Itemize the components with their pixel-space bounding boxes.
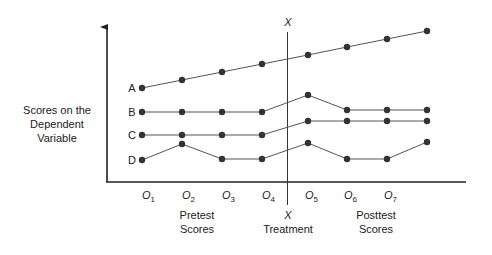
observation-label-o4: O4 <box>262 189 276 204</box>
svg-text:O6: O6 <box>344 189 358 204</box>
series-label-c: C <box>128 129 136 141</box>
observation-label-o3: O3 <box>222 189 236 204</box>
svg-text:O1: O1 <box>142 189 156 204</box>
svg-text:O2: O2 <box>182 189 196 204</box>
pretest-caption-line2: Scores <box>180 223 215 235</box>
observation-label-o2: O2 <box>182 189 196 204</box>
y-axis-label-line2: Dependent <box>30 118 84 130</box>
series-label-a: A <box>128 82 136 94</box>
treatment-caption: Treatment <box>263 223 313 235</box>
svg-text:O7: O7 <box>384 189 398 204</box>
observation-label-o7: O7 <box>384 189 398 204</box>
svg-text:O4: O4 <box>262 189 276 204</box>
observation-label-o6: O6 <box>344 189 358 204</box>
treatment-bottom-label: X <box>283 209 292 221</box>
svg-text:O5: O5 <box>305 189 319 204</box>
posttest-caption-line1: Posttest <box>356 209 396 221</box>
label-layer: X Scores on the Dependent Variable A B C… <box>0 0 492 255</box>
observation-label-o1: O1 <box>142 189 156 204</box>
series-label-d: D <box>128 154 136 166</box>
svg-text:O3: O3 <box>222 189 236 204</box>
posttest-caption-line2: Scores <box>359 223 394 235</box>
series-label-b: B <box>128 106 135 118</box>
y-axis-label-line1: Scores on the <box>23 104 91 116</box>
treatment-top-label: X <box>283 16 292 28</box>
observation-label-o5: O5 <box>305 189 319 204</box>
pretest-caption-line1: Pretest <box>180 209 215 221</box>
y-axis-label-line3: Variable <box>37 132 77 144</box>
